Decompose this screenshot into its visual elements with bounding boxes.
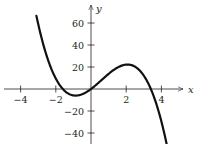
x-tick-label: 2 <box>123 94 129 105</box>
x-tick-label: 4 <box>158 94 164 105</box>
y-tick-label: 40 <box>72 40 84 51</box>
y-tick-label: −20 <box>64 106 84 117</box>
y-tick-label: 20 <box>72 62 84 73</box>
x-tick-label: −2 <box>49 94 63 105</box>
y-axis-label: y <box>95 3 102 14</box>
y-tick-label: 60 <box>72 18 84 29</box>
x-axis-label: x <box>188 84 194 95</box>
cubic-function-graph: −4−224 604020−20−40 x y <box>0 0 198 144</box>
x-axis-ticks: −4−224 <box>14 86 165 106</box>
cubic-curve <box>36 16 166 144</box>
y-tick-label: −40 <box>64 128 84 139</box>
y-axis-ticks: 604020−20−40 <box>64 18 95 139</box>
x-tick-label: −4 <box>14 94 28 105</box>
